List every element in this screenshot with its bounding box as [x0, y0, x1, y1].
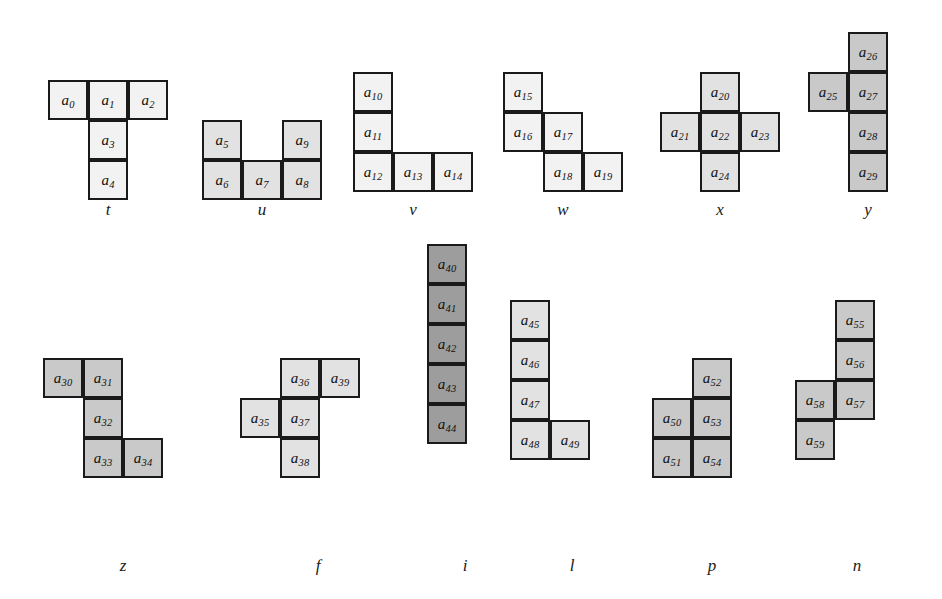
cell-label-base: a — [364, 164, 372, 180]
cell-a38: a38 — [280, 438, 320, 478]
cell-a29: a29 — [848, 152, 888, 192]
cell-label-a38: a38 — [291, 451, 310, 466]
cell-label-a9: a9 — [295, 133, 308, 148]
cell-a41: a41 — [427, 284, 467, 324]
cell-a24: a24 — [700, 152, 740, 192]
cell-label-subscript: 56 — [854, 359, 865, 370]
piece-label-w: w — [557, 200, 568, 220]
cell-label-a25: a25 — [819, 85, 838, 100]
cell-label-subscript: 35 — [259, 417, 270, 428]
cell-a15: a15 — [503, 72, 543, 112]
cell-a34: a34 — [123, 438, 163, 478]
cell-label-subscript: 10 — [372, 91, 383, 102]
cell-label-subscript: 1 — [109, 99, 114, 110]
piece-label-v: v — [409, 200, 417, 220]
cell-label-a35: a35 — [251, 411, 270, 426]
cell-label-subscript: 30 — [62, 377, 73, 388]
cell-label-subscript: 26 — [867, 51, 878, 62]
cell-label-base: a — [331, 370, 339, 386]
piece-label-z: z — [120, 556, 127, 576]
cell-label-a53: a53 — [703, 411, 722, 426]
cell-label-subscript: 58 — [814, 399, 825, 410]
cell-label-base: a — [521, 352, 529, 368]
cell-label-subscript: 5 — [223, 139, 228, 150]
cell-label-subscript: 42 — [446, 343, 457, 354]
cell-label-base: a — [561, 432, 569, 448]
cell-label-base: a — [521, 432, 529, 448]
cell-label-a55: a55 — [846, 313, 865, 328]
cell-label-a14: a14 — [444, 165, 463, 180]
piece-label-f: f — [316, 556, 321, 576]
cell-label-subscript: 29 — [867, 171, 878, 182]
cell-a35: a35 — [240, 398, 280, 438]
cell-label-base: a — [364, 124, 372, 140]
cell-label-base: a — [806, 432, 814, 448]
cell-label-a45: a45 — [521, 313, 540, 328]
cell-label-a42: a42 — [438, 337, 457, 352]
cell-a13: a13 — [393, 152, 433, 192]
cell-label-subscript: 47 — [529, 399, 540, 410]
cell-label-a33: a33 — [94, 451, 113, 466]
cell-label-base: a — [594, 164, 602, 180]
cell-label-subscript: 3 — [109, 139, 114, 150]
cell-label-a6: a6 — [215, 173, 228, 188]
cell-a21: a21 — [660, 112, 700, 152]
cell-a47: a47 — [510, 380, 550, 420]
cell-label-subscript: 2 — [149, 99, 154, 110]
cell-label-subscript: 45 — [529, 319, 540, 330]
cell-label-subscript: 25 — [827, 91, 838, 102]
cell-label-base: a — [438, 336, 446, 352]
piece-label-p: p — [708, 556, 717, 576]
cell-label-a44: a44 — [438, 417, 457, 432]
cell-label-subscript: 4 — [109, 179, 114, 190]
cell-label-a2: a2 — [141, 93, 154, 108]
cell-label-base: a — [703, 370, 711, 386]
cell-label-a41: a41 — [438, 297, 457, 312]
cell-a27: a27 — [848, 72, 888, 112]
cell-label-base: a — [438, 296, 446, 312]
cell-label-a8: a8 — [295, 173, 308, 188]
cell-label-subscript: 24 — [719, 171, 730, 182]
cell-a33: a33 — [83, 438, 123, 478]
cell-label-a7: a7 — [255, 173, 268, 188]
cell-label-subscript: 27 — [867, 91, 878, 102]
cell-label-subscript: 40 — [446, 263, 457, 274]
cell-label-base: a — [61, 92, 69, 108]
cell-label-base: a — [364, 84, 372, 100]
cell-label-subscript: 43 — [446, 383, 457, 394]
cell-label-a43: a43 — [438, 377, 457, 392]
cell-label-a22: a22 — [711, 125, 730, 140]
cell-label-a48: a48 — [521, 433, 540, 448]
cell-label-subscript: 31 — [102, 377, 113, 388]
piece-label-y: y — [864, 200, 872, 220]
cell-label-a20: a20 — [711, 85, 730, 100]
cell-label-subscript: 59 — [814, 439, 825, 450]
cell-label-subscript: 53 — [711, 417, 722, 428]
cell-label-subscript: 51 — [671, 457, 682, 468]
cell-a4: a4 — [88, 160, 128, 200]
cell-label-base: a — [438, 256, 446, 272]
cell-label-subscript: 0 — [69, 99, 74, 110]
cell-label-a31: a31 — [94, 371, 113, 386]
cell-label-base: a — [663, 410, 671, 426]
cell-label-subscript: 32 — [102, 417, 113, 428]
cell-label-a12: a12 — [364, 165, 383, 180]
cell-label-a18: a18 — [554, 165, 573, 180]
cell-label-a59: a59 — [806, 433, 825, 448]
cell-label-a13: a13 — [404, 165, 423, 180]
cell-label-subscript: 28 — [867, 131, 878, 142]
cell-label-subscript: 49 — [569, 439, 580, 450]
cell-label-subscript: 17 — [562, 131, 573, 142]
cell-label-base: a — [291, 450, 299, 466]
cell-label-subscript: 44 — [446, 423, 457, 434]
cell-label-base: a — [291, 370, 299, 386]
cell-a31: a31 — [83, 358, 123, 398]
cell-a6: a6 — [202, 160, 242, 200]
cell-a0: a0 — [48, 80, 88, 120]
cell-a55: a55 — [835, 300, 875, 340]
cell-label-a1: a1 — [101, 93, 114, 108]
cell-label-subscript: 22 — [719, 131, 730, 142]
cell-label-a4: a4 — [101, 173, 114, 188]
cell-label-subscript: 21 — [679, 131, 690, 142]
cell-label-a58: a58 — [806, 393, 825, 408]
